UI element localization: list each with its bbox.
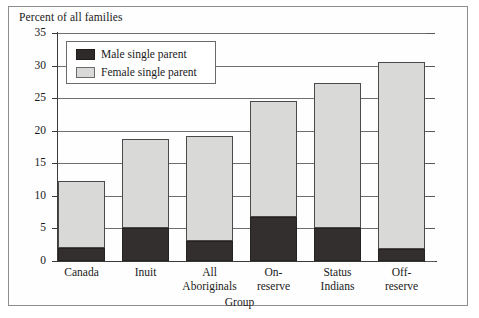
gridline <box>58 98 426 99</box>
gridline <box>58 228 426 229</box>
bar-segment-male <box>122 228 169 261</box>
x-axis-line <box>57 261 437 262</box>
y-tick-label: 5 <box>14 222 46 234</box>
y-tick-label: 10 <box>14 190 46 202</box>
y-tick-mark <box>52 33 58 34</box>
y-tick-label-text: 30 <box>14 60 46 72</box>
chart-title: Percent of all families <box>19 11 123 23</box>
legend-label-female: Female single parent <box>101 65 197 80</box>
y-tick-label: 30 <box>14 60 46 72</box>
y-tick-mark <box>52 66 58 67</box>
bar-segment-male <box>250 217 297 261</box>
x-tick-label-line: reserve <box>357 280 447 294</box>
y-tick-mark <box>52 131 58 132</box>
bar-segment-female <box>250 101 297 216</box>
bar-inuit <box>122 139 169 261</box>
y-tick-mark-right <box>426 33 435 34</box>
legend-label-male: Male single parent <box>101 47 187 62</box>
y-tick-mark-right <box>426 163 435 164</box>
y-tick-label-text: 15 <box>14 157 46 169</box>
legend: Male single parent Female single parent <box>66 41 216 84</box>
legend-swatch-female-icon <box>76 67 95 78</box>
bar-segment-female <box>186 136 233 241</box>
y-tick-label-text: 5 <box>14 222 46 234</box>
bar-segment-male <box>378 249 425 261</box>
bar-segment-female <box>58 181 105 248</box>
bar-segment-male <box>58 248 105 261</box>
gridline <box>58 196 426 197</box>
bar-segment-female <box>378 62 425 248</box>
y-tick-label: 35 <box>14 27 46 39</box>
y-tick-label-text: 25 <box>14 92 46 104</box>
gridline <box>58 131 426 132</box>
y-tick-mark-right <box>426 98 435 99</box>
y-tick-mark <box>52 163 58 164</box>
y-tick-label-text: 35 <box>14 27 46 39</box>
bar-segment-female <box>314 83 361 229</box>
y-tick-label: 20 <box>14 125 46 137</box>
bar-on-reserve <box>250 101 297 261</box>
gridline <box>58 33 426 34</box>
y-tick-mark <box>52 98 58 99</box>
y-tick-mark-right <box>426 261 435 262</box>
y-tick-label: 25 <box>14 92 46 104</box>
bar-off-reserve <box>378 62 425 261</box>
figure-canvas: Percent of all families 05101520253035 C… <box>0 0 479 318</box>
bar-segment-female <box>122 139 169 228</box>
bar-segment-male <box>186 241 233 261</box>
bar-canada <box>58 181 105 261</box>
y-tick-mark-right <box>426 66 435 67</box>
x-tick-label: Off-reserve <box>357 266 447 293</box>
bar-segment-male <box>314 228 361 261</box>
y-tick-mark-right <box>426 131 435 132</box>
x-tick-label-line: Off- <box>357 266 447 280</box>
y-tick-mark-right <box>426 196 435 197</box>
y-tick-mark-right <box>426 228 435 229</box>
gridline <box>58 163 426 164</box>
x-axis-title: Group <box>0 296 479 308</box>
y-tick-label-text: 20 <box>14 125 46 137</box>
bar-all-aboriginals <box>186 136 233 261</box>
y-tick-mark <box>52 261 58 262</box>
legend-swatch-male-icon <box>76 49 95 60</box>
y-tick-label: 15 <box>14 157 46 169</box>
y-tick-label-text: 10 <box>14 190 46 202</box>
y-tick-label-text: 0 <box>14 255 46 267</box>
bar-status-indians <box>314 83 361 261</box>
